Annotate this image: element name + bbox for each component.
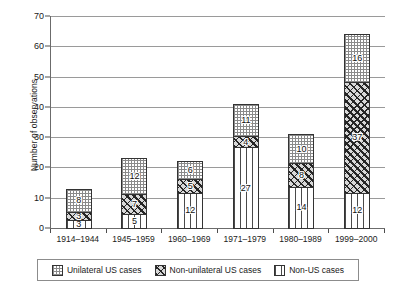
x-tick-label: 1960–1969 xyxy=(158,235,220,244)
bar-segment-value: 8 xyxy=(76,196,81,205)
y-tick-label: 10 xyxy=(18,193,44,202)
bar-group[interactable]: 11427 xyxy=(218,16,274,228)
bars-layer: 833127565121142710814163712 xyxy=(51,16,385,228)
bar-segment-value: 11 xyxy=(241,116,250,125)
bar-segment[interactable]: 14 xyxy=(288,187,314,229)
legend-swatch xyxy=(52,265,63,276)
bar-segment[interactable]: 5 xyxy=(121,214,147,229)
y-tick-label: 60 xyxy=(18,42,44,51)
bar-segment-value: 6 xyxy=(188,166,193,175)
x-tick-label: 1999–2000 xyxy=(325,235,387,244)
bar-segment-value: 5 xyxy=(188,182,193,191)
bar-segment-value: 12 xyxy=(185,206,195,215)
bar-segment[interactable]: 37 xyxy=(344,82,370,194)
stacked-bar[interactable]: 163712 xyxy=(344,34,370,228)
y-tick-label: 70 xyxy=(18,12,44,21)
legend-item[interactable]: Unilateral US cases xyxy=(52,265,142,276)
bar-group[interactable]: 833 xyxy=(51,16,107,228)
bar-segment[interactable]: 7 xyxy=(121,194,147,215)
bar-segment-value: 3 xyxy=(76,220,81,229)
x-tick-mark xyxy=(384,229,385,233)
bar-segment[interactable]: 3 xyxy=(66,220,92,229)
bar-segment-value: 8 xyxy=(299,171,304,180)
x-tick-label: 1914–1944 xyxy=(47,235,109,244)
stacked-bar[interactable]: 6512 xyxy=(177,161,203,228)
bar-segment[interactable]: 11 xyxy=(233,104,259,137)
bar-group[interactable]: 163712 xyxy=(329,16,385,228)
bar-segment[interactable]: 12 xyxy=(344,193,370,229)
stacked-bar[interactable]: 11427 xyxy=(233,104,259,228)
bar-segment-value: 5 xyxy=(132,217,137,226)
bar-group[interactable]: 1275 xyxy=(107,16,163,228)
bar-segment-value: 7 xyxy=(132,200,137,209)
y-tick-label: 40 xyxy=(18,102,44,111)
stacked-bar[interactable]: 833 xyxy=(66,189,92,228)
y-tick-label: 30 xyxy=(18,133,44,142)
bar-segment-value: 16 xyxy=(352,54,362,63)
chart-legend: Unilateral US casesNon-unilateral US cas… xyxy=(37,259,359,281)
bar-segment[interactable]: 5 xyxy=(177,179,203,194)
legend-item[interactable]: Non-US cases xyxy=(274,265,344,276)
x-tick-label: 1971–1979 xyxy=(214,235,276,244)
x-tick-mark xyxy=(50,229,51,233)
y-tick-label: 50 xyxy=(18,72,44,81)
legend-label: Non-unilateral US cases xyxy=(170,266,262,275)
legend-label: Non-US cases xyxy=(289,266,344,275)
bar-segment[interactable]: 10 xyxy=(288,134,314,164)
plot-area: 833127565121142710814163712 xyxy=(50,16,385,229)
y-axis-ticks: 010203040506070 xyxy=(18,16,44,228)
bar-segment-value: 12 xyxy=(129,172,139,181)
legend-swatch xyxy=(155,265,166,276)
bar-segment-value: 4 xyxy=(243,138,248,147)
bar-segment[interactable]: 6 xyxy=(177,161,203,179)
legend-label: Unilateral US cases xyxy=(67,266,142,275)
stacked-bar[interactable]: 10814 xyxy=(288,134,314,228)
legend-item[interactable]: Non-unilateral US cases xyxy=(155,265,262,276)
x-tick-mark xyxy=(328,229,329,233)
bar-segment-value: 14 xyxy=(296,203,306,212)
x-tick-mark xyxy=(106,229,107,233)
bar-segment[interactable]: 27 xyxy=(233,147,259,229)
bar-segment[interactable]: 12 xyxy=(121,158,147,194)
legend-swatch xyxy=(274,265,285,276)
x-tick-mark xyxy=(217,229,218,233)
bar-segment-value: 27 xyxy=(241,184,251,193)
bar-segment[interactable]: 12 xyxy=(177,193,203,229)
bar-segment-value: 3 xyxy=(76,212,81,221)
x-tick-label: 1980–1989 xyxy=(270,235,332,244)
bar-segment[interactable]: 8 xyxy=(66,189,92,213)
bar-segment[interactable]: 8 xyxy=(288,163,314,187)
x-tick-mark xyxy=(161,229,162,233)
x-axis-ticks: 1914–19441945–19591960–19691971–19791980… xyxy=(50,229,385,249)
y-tick-label: 0 xyxy=(18,224,44,233)
y-tick-label: 20 xyxy=(18,163,44,172)
bar-group[interactable]: 6512 xyxy=(162,16,218,228)
bar-segment[interactable]: 16 xyxy=(344,34,370,82)
x-tick-label: 1945–1959 xyxy=(103,235,165,244)
bar-segment-value: 12 xyxy=(352,206,362,215)
bar-segment-value: 37 xyxy=(352,133,362,142)
stacked-bar-chart: Number of observations 010203040506070 8… xyxy=(0,0,396,293)
x-tick-mark xyxy=(273,229,274,233)
bar-segment-value: 10 xyxy=(296,145,306,154)
bar-group[interactable]: 10814 xyxy=(274,16,330,228)
stacked-bar[interactable]: 1275 xyxy=(121,158,147,228)
